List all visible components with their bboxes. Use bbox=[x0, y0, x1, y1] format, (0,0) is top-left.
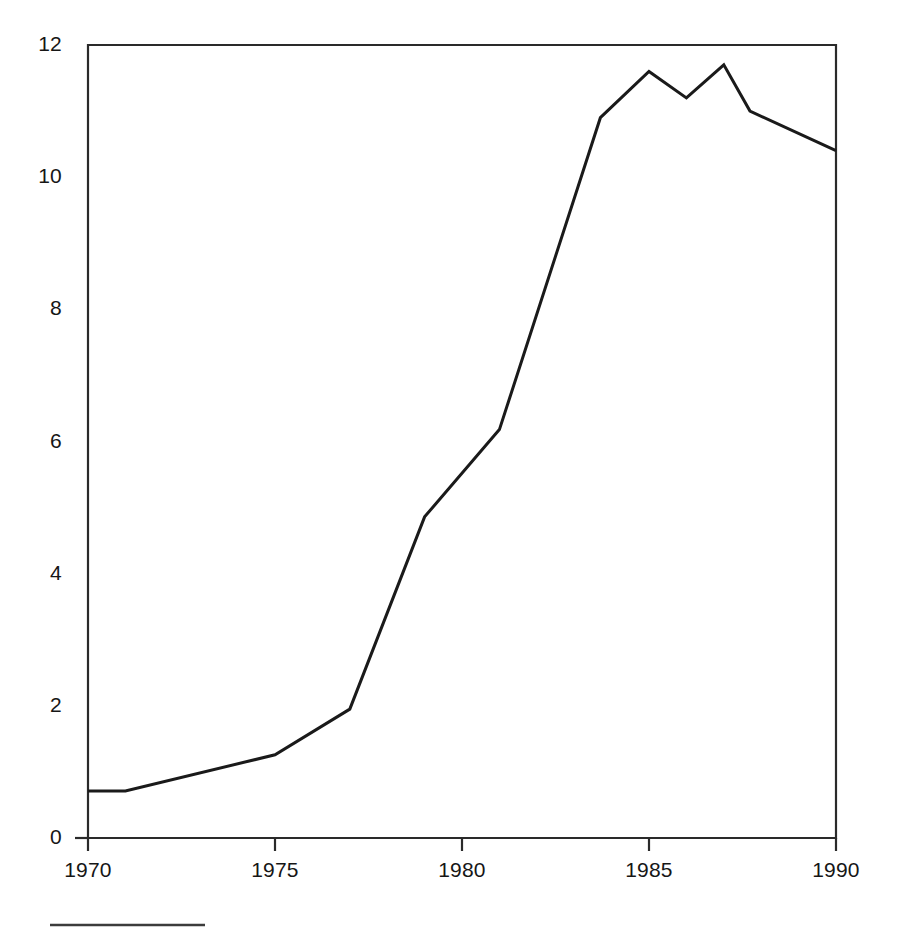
plot-axes bbox=[88, 45, 836, 838]
line-chart-plot bbox=[0, 0, 897, 930]
data-line-series-0 bbox=[88, 65, 836, 791]
x-axis-tick-label: 1985 bbox=[609, 858, 689, 882]
y-axis-tick-label: 2 bbox=[0, 693, 62, 717]
chart-figure: 024681012 19701975198019851990 bbox=[0, 0, 897, 930]
x-axis-tick-label: 1975 bbox=[235, 858, 315, 882]
y-axis-tick-label: 4 bbox=[0, 561, 62, 585]
plot-frame bbox=[88, 45, 836, 838]
x-axis-ticks bbox=[88, 838, 836, 851]
y-axis-tick-label: 0 bbox=[0, 825, 62, 849]
x-axis-tick-label: 1990 bbox=[796, 858, 876, 882]
y-axis-tick-label: 10 bbox=[0, 164, 62, 188]
data-series-group bbox=[88, 65, 836, 791]
y-axis-tick-label: 6 bbox=[0, 429, 62, 453]
y-axis-tick-label: 12 bbox=[0, 32, 62, 56]
x-axis-tick-label: 1970 bbox=[48, 858, 128, 882]
y-axis-tick-label: 8 bbox=[0, 296, 62, 320]
x-axis-tick-label: 1980 bbox=[422, 858, 502, 882]
